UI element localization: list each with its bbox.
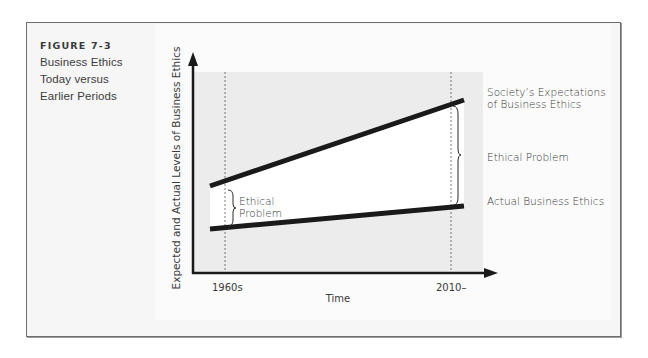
x-axis-arrow-icon — [484, 268, 498, 278]
ethics-diagram: Expected and Actual Levels of Business E… — [0, 0, 648, 358]
y-axis-label: Expected and Actual Levels of Business E… — [170, 47, 182, 290]
x-axis-label: Time — [325, 293, 350, 304]
x-tick-1960s: 1960s — [212, 282, 243, 293]
x-tick-2010: 2010– — [436, 282, 466, 293]
early-gap-label-line1: Ethical — [239, 195, 274, 207]
expectations-label-line2: of Business Ethics — [487, 98, 581, 110]
y-axis-arrow-icon — [188, 52, 198, 66]
actual-label: Actual Business Ethics — [487, 195, 604, 207]
expectations-label-line1: Society’s Expectations — [487, 86, 606, 98]
early-gap-label-line2: Problem — [239, 207, 282, 219]
gap-label: Ethical Problem — [487, 151, 569, 163]
